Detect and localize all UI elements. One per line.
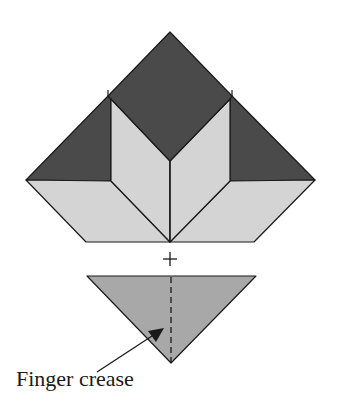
dark-left-side bbox=[26, 96, 111, 181]
finger-crease-label: Finger crease bbox=[16, 366, 134, 391]
bottom-triangle bbox=[87, 276, 256, 363]
plus-symbol bbox=[163, 252, 177, 266]
dark-right-side bbox=[230, 96, 315, 181]
origami-diagram: Finger crease bbox=[0, 0, 338, 408]
top-model bbox=[26, 32, 315, 242]
